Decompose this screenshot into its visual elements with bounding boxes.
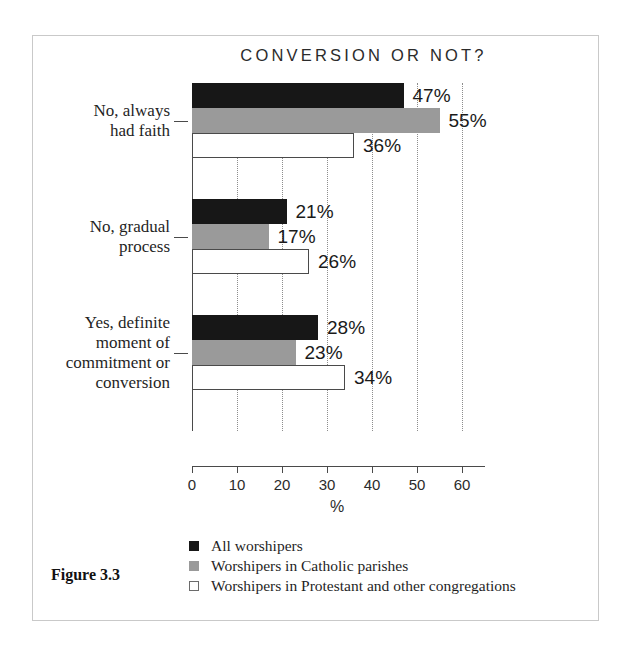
x-axis-tick (327, 466, 328, 473)
legend-label: All worshipers (211, 537, 303, 555)
category-axis-labels: No, alwayshad faithNo, gradualprocessYes… (14, 83, 192, 431)
x-axis-tick (417, 466, 418, 473)
legend-item: Worshipers in Protestant and other congr… (189, 576, 516, 596)
bar-value-label: 17% (278, 224, 316, 249)
bar (192, 249, 309, 274)
bar-value-label: 28% (327, 315, 365, 340)
bar-value-label: 55% (449, 108, 487, 133)
category-label-line: moment of (10, 333, 170, 353)
category-leader-line (174, 121, 188, 122)
bar-value-label: 36% (363, 133, 401, 158)
legend-swatch-icon (189, 561, 199, 571)
bar (192, 365, 345, 390)
bar (192, 108, 440, 133)
legend-item: All worshipers (189, 536, 516, 556)
legend-swatch-icon (189, 581, 199, 591)
category-label-line: had faith (10, 121, 170, 141)
category-label-line: conversion (10, 373, 170, 393)
bar-value-label: 47% (413, 83, 451, 108)
category-label-line: commitment or (10, 353, 170, 373)
category-label: No, gradualprocess (10, 217, 170, 257)
bar (192, 340, 296, 365)
category-label-line: No, always (10, 101, 170, 121)
bar (192, 199, 287, 224)
bar-value-label: 34% (354, 365, 392, 390)
legend-label: Worshipers in Catholic parishes (211, 557, 408, 575)
category-label: No, alwayshad faith (10, 101, 170, 141)
bar (192, 224, 269, 249)
x-axis-tick (192, 466, 193, 473)
category-leader-line (174, 237, 188, 238)
x-axis-tick-label: 50 (397, 476, 437, 493)
category-label: Yes, definitemoment ofcommitment orconve… (10, 313, 170, 393)
legend-item: Worshipers in Catholic parishes (189, 556, 516, 576)
bar-value-label: 23% (305, 340, 343, 365)
bar-value-label: 26% (318, 249, 356, 274)
x-axis-title: % (192, 498, 482, 516)
bar (192, 133, 354, 158)
x-axis-tick (237, 466, 238, 473)
chart-title: CONVERSION OR NOT? (191, 46, 536, 65)
x-axis-tick (282, 466, 283, 473)
x-axis-tick-label: 20 (262, 476, 302, 493)
x-axis-tick-label: 0 (172, 476, 212, 493)
category-label-line: No, gradual (10, 217, 170, 237)
bar-value-label: 21% (296, 199, 334, 224)
x-axis-tick (462, 466, 463, 473)
category-leader-line (174, 353, 188, 354)
figure-frame: CONVERSION OR NOT? 47%55%36%21%17%26%28%… (32, 35, 599, 621)
bar (192, 315, 318, 340)
gridline-60 (462, 83, 463, 431)
figure-caption: Figure 3.3 (51, 566, 120, 584)
x-axis-tick-label: 40 (352, 476, 392, 493)
gridline-50 (417, 83, 418, 431)
legend-swatch-icon (189, 541, 199, 551)
x-axis-tick (372, 466, 373, 473)
x-axis-tick-label: 60 (442, 476, 482, 493)
plot-area: 47%55%36%21%17%26%28%23%34% (192, 83, 482, 431)
category-label-line: Yes, definite (10, 313, 170, 333)
x-axis-line (192, 466, 485, 467)
chart-legend: All worshipersWorshipers in Catholic par… (189, 536, 516, 596)
legend-label: Worshipers in Protestant and other congr… (211, 577, 516, 595)
x-axis-tick-label: 30 (307, 476, 347, 493)
bar (192, 83, 404, 108)
x-axis-tick-label: 10 (217, 476, 257, 493)
category-label-line: process (10, 237, 170, 257)
